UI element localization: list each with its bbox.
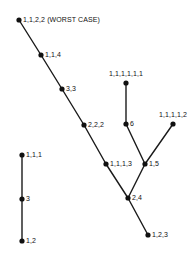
graph-edge — [128, 198, 148, 235]
graph-node-label: 2,2,2 — [88, 121, 104, 129]
graph-node-label: 2,4 — [132, 194, 142, 202]
graph-edge — [84, 125, 106, 164]
graph-node-dot — [16, 17, 21, 22]
graph-node-label: 1,1,1 — [26, 151, 42, 159]
graph-node-dot — [123, 80, 128, 85]
graph-node-dot — [145, 232, 150, 237]
graph-node-label: 3 — [26, 195, 30, 203]
graph-node-label: 6 — [130, 120, 134, 128]
graph-node-dot — [123, 121, 128, 126]
graph-edge — [19, 20, 41, 55]
graph-node-label: 1,2,3 — [152, 231, 168, 239]
graph-node-label: 1,1,2,2 (WORST CASE) — [23, 16, 100, 24]
graph-edge — [126, 124, 145, 164]
graph-edge — [128, 164, 145, 198]
graph-node-dot — [170, 121, 175, 126]
graph-edge — [41, 55, 62, 89]
graph-node-label: 1,1,1,1,2 — [159, 111, 187, 119]
graph-node-dot — [81, 122, 86, 127]
graph-node-label: 1,1,4 — [45, 51, 61, 59]
graph-node-dot — [142, 161, 147, 166]
graph-edge — [62, 89, 84, 125]
graph-node-label: 1,1,1,1,1,1 — [109, 70, 143, 78]
graph-node-dot — [38, 52, 43, 57]
graph-node-dot — [103, 161, 108, 166]
graph-node-label: 1,2 — [26, 237, 36, 245]
graph-node-dot — [19, 152, 24, 157]
graph-node-label: 1,5 — [149, 160, 159, 168]
graph-node-dot — [19, 238, 24, 243]
graph-edge — [106, 164, 128, 198]
graph-node-label: 1,1,1,3 — [110, 160, 132, 168]
graph-edge — [145, 124, 173, 164]
graph-node-dot — [19, 196, 24, 201]
graph-node-dot — [125, 195, 130, 200]
partition-tree-diagram: 1,1,2,2 (WORST CASE)1,1,43,32,2,21,1,1,3… — [0, 0, 191, 255]
graph-node-dot — [59, 86, 64, 91]
graph-node-label: 3,3 — [66, 85, 76, 93]
